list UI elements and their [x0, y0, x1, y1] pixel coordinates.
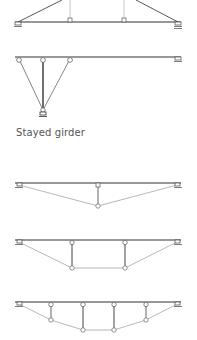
- node: [112, 302, 116, 306]
- diagram-suspended-truss: [14, 0, 182, 29]
- node: [49, 318, 53, 322]
- node: [81, 302, 85, 306]
- stayed-girder-diagrams: [0, 0, 197, 340]
- node: [122, 18, 126, 22]
- support-icon: [174, 240, 182, 245]
- node: [41, 58, 46, 63]
- node: [68, 58, 73, 63]
- roller-support-icon: [174, 22, 182, 29]
- node: [17, 58, 22, 63]
- node: [81, 328, 85, 332]
- node: [96, 183, 100, 187]
- diagram-queenpost: [15, 240, 182, 270]
- node: [70, 266, 74, 270]
- node: [123, 266, 127, 270]
- diagram-polygonal-four-post: [15, 302, 182, 332]
- node: [96, 204, 100, 208]
- pin-support-icon: [14, 22, 22, 27]
- node: [144, 302, 148, 306]
- roller-support-icon: [174, 57, 182, 62]
- node: [112, 328, 116, 332]
- node: [68, 18, 72, 22]
- support-icon: [15, 240, 23, 245]
- node: [41, 108, 45, 112]
- caption-stayed-girder: Stayed girder: [16, 127, 85, 138]
- anchor-support-icon: [39, 112, 47, 117]
- node: [123, 240, 127, 244]
- support-icon: [174, 183, 182, 188]
- support-icon: [174, 302, 182, 307]
- node: [70, 240, 74, 244]
- diagram-cantilever-stayed: [15, 57, 182, 117]
- node: [49, 302, 53, 306]
- support-icon: [15, 302, 23, 307]
- support-icon: [15, 183, 23, 188]
- node: [144, 318, 148, 322]
- diagram-kingpost: [15, 183, 182, 208]
